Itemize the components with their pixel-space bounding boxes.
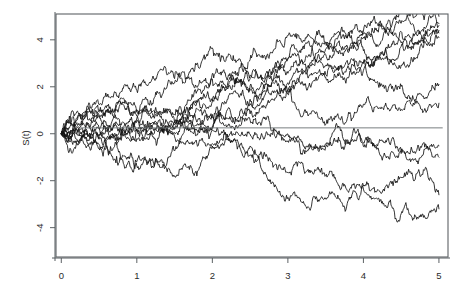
y-tick-label: -4 xyxy=(34,223,45,231)
brownian-motion-plot: 012345 -4-2024 S(t) xyxy=(0,0,469,300)
y-tick-label: 2 xyxy=(34,84,45,89)
x-tick-label: 4 xyxy=(361,270,366,281)
y-tick-label: 4 xyxy=(34,37,45,42)
y-tick-label: 0 xyxy=(34,131,45,136)
x-tick-label: 5 xyxy=(436,270,441,281)
y-tick-label: -2 xyxy=(34,176,45,184)
x-tick-label: 3 xyxy=(285,270,290,281)
x-tick-label: 2 xyxy=(210,270,215,281)
y-axis-title: S(t) xyxy=(20,130,31,145)
figure-page: 012345 -4-2024 S(t) xyxy=(0,0,469,300)
x-tick-label: 0 xyxy=(59,270,64,281)
x-tick-label: 1 xyxy=(134,270,139,281)
